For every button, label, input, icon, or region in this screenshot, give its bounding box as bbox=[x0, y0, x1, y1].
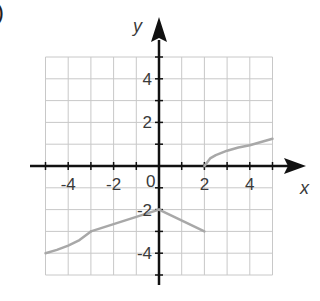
x-tick-label: 4 bbox=[245, 175, 254, 194]
graph-segment bbox=[204, 139, 272, 166]
y-tick-label: 2 bbox=[143, 113, 152, 132]
y-tick-label: -2 bbox=[137, 201, 152, 220]
y-axis-arrow-icon bbox=[151, 17, 167, 42]
x-tick-label: -4 bbox=[61, 175, 76, 194]
x-axis-label: x bbox=[299, 178, 310, 198]
x-tick-label: -2 bbox=[106, 175, 121, 194]
y-tick-label: 4 bbox=[143, 70, 152, 89]
x-tick-label: 2 bbox=[200, 175, 209, 194]
y-axis-label: y bbox=[131, 16, 143, 36]
y-tick-label: -4 bbox=[137, 244, 152, 263]
origin-label: 0 bbox=[146, 172, 155, 191]
coordinate-plane: x y 0 -4-22442-2-4 bbox=[0, 0, 320, 301]
